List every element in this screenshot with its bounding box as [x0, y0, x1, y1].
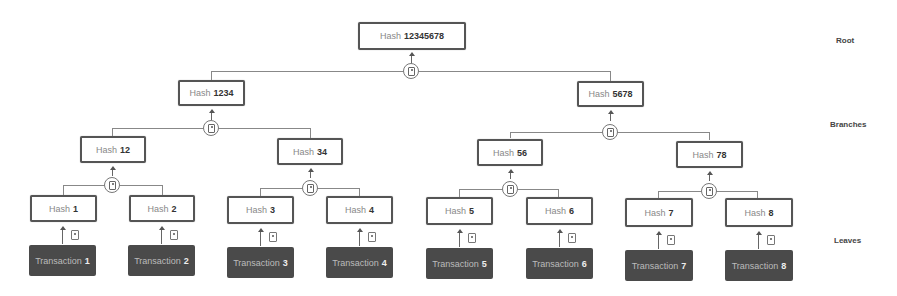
- tx-prefix: Transaction: [35, 256, 82, 266]
- connector: [63, 185, 64, 195]
- tx-id: 3: [283, 258, 288, 268]
- arrow-up-icon: [459, 232, 460, 247]
- transaction-node-3: Transaction3: [227, 247, 294, 278]
- transaction-node-7: Transaction7: [625, 250, 693, 281]
- transaction-node-1: Transaction1: [29, 245, 96, 276]
- hash-prefix: Hash: [644, 208, 665, 218]
- connector: [510, 132, 511, 138]
- level-label-leaves: Leaves: [834, 236, 861, 245]
- hash-function-icon: [104, 177, 120, 193]
- tx-prefix: Transaction: [233, 258, 280, 268]
- hash-function-icon: [568, 233, 576, 243]
- hash-node-5: Hash5: [426, 197, 493, 225]
- hash-function-icon: [368, 232, 376, 242]
- hash-prefix: Hash: [445, 206, 466, 216]
- connector: [459, 189, 460, 197]
- hash-function-icon: [701, 183, 717, 199]
- connector: [757, 191, 758, 198]
- hash-function-icon: [767, 235, 775, 245]
- arrow-up-icon: [310, 171, 311, 178]
- hash-id: 8: [769, 208, 774, 218]
- transaction-node-4: Transaction4: [326, 247, 393, 278]
- hash-function-icon: [602, 124, 618, 140]
- tx-id: 4: [382, 258, 387, 268]
- hash-node-5678: Hash5678: [577, 81, 644, 107]
- hash-node-12: Hash12: [80, 136, 146, 163]
- hash-prefix: Hash: [189, 88, 210, 98]
- hash-prefix: Hash: [380, 31, 401, 41]
- connector: [709, 132, 710, 140]
- hash-id: 1: [73, 204, 78, 214]
- hash-id: 3: [270, 205, 275, 215]
- hash-id: 5: [469, 206, 474, 216]
- hash-function-icon: [468, 233, 476, 243]
- transaction-node-8: Transaction8: [725, 250, 793, 281]
- tx-id: 1: [85, 256, 90, 266]
- root-hash-node: Hash12345678: [358, 22, 466, 50]
- hash-prefix: Hash: [493, 148, 514, 158]
- hash-node-3: Hash3: [227, 196, 294, 224]
- connector: [558, 189, 559, 197]
- hash-node-6: Hash6: [526, 197, 593, 225]
- hash-node-78: Hash78: [676, 141, 743, 168]
- hash-prefix: Hash: [545, 206, 566, 216]
- level-label-branches: Branches: [830, 120, 866, 129]
- arrow-up-icon: [758, 234, 759, 249]
- hash-id: 2: [172, 204, 177, 214]
- hash-node-2: Hash2: [129, 195, 195, 222]
- hash-id: 56: [517, 148, 527, 158]
- tx-prefix: Transaction: [632, 261, 679, 271]
- arrow-up-icon: [610, 113, 611, 121]
- transaction-node-5: Transaction5: [426, 248, 493, 279]
- hash-function-icon: [269, 232, 277, 242]
- hash-node-1234: Hash1234: [178, 80, 245, 106]
- arrow-up-icon: [359, 231, 360, 246]
- hash-id: 1234: [213, 88, 233, 98]
- hash-prefix: Hash: [588, 89, 609, 99]
- connector: [359, 188, 360, 196]
- arrow-up-icon: [658, 234, 659, 249]
- hash-function-icon: [170, 230, 178, 240]
- connector: [260, 188, 261, 196]
- tx-id: 5: [482, 259, 487, 269]
- tx-prefix: Transaction: [732, 261, 779, 271]
- arrow-up-icon: [161, 229, 162, 244]
- connector: [610, 71, 611, 81]
- connector: [658, 191, 659, 198]
- tx-prefix: Transaction: [134, 256, 181, 266]
- hash-id: 78: [717, 150, 727, 160]
- tx-id: 7: [681, 261, 686, 271]
- hash-prefix: Hash: [692, 150, 713, 160]
- hash-function-icon: [502, 181, 518, 197]
- arrow-up-icon: [211, 112, 212, 120]
- hash-function-icon: [302, 180, 318, 196]
- hash-node-1: Hash1: [30, 195, 97, 222]
- transaction-node-2: Transaction2: [128, 245, 195, 276]
- tx-prefix: Transaction: [532, 259, 579, 269]
- hash-node-34: Hash34: [277, 138, 343, 165]
- hash-id: 6: [569, 206, 574, 216]
- arrow-up-icon: [62, 229, 63, 244]
- hash-prefix: Hash: [345, 205, 366, 215]
- tx-prefix: Transaction: [332, 258, 379, 268]
- hash-prefix: Hash: [147, 204, 168, 214]
- connector: [112, 128, 113, 136]
- hash-id: 12345678: [404, 31, 444, 41]
- tx-id: 2: [184, 256, 189, 266]
- hash-id: 4: [369, 205, 374, 215]
- tx-prefix: Transaction: [432, 259, 479, 269]
- hash-function-icon: [203, 120, 219, 136]
- hash-prefix: Hash: [96, 145, 117, 155]
- arrow-up-icon: [709, 174, 710, 181]
- hash-prefix: Hash: [744, 208, 765, 218]
- hash-node-56: Hash56: [477, 139, 543, 166]
- hash-function-icon: [403, 63, 419, 79]
- hash-id: 7: [669, 208, 674, 218]
- connector: [310, 128, 311, 138]
- hash-node-8: Hash8: [725, 198, 793, 227]
- arrow-up-icon: [510, 172, 511, 179]
- transaction-node-6: Transaction6: [526, 248, 593, 279]
- level-label-root: Root: [836, 36, 854, 45]
- arrow-up-icon: [260, 231, 261, 246]
- hash-id: 34: [317, 147, 327, 157]
